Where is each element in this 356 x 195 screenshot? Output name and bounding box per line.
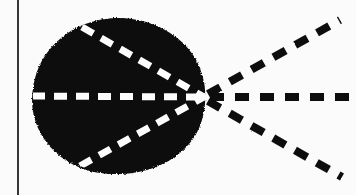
- diagram-svg: [0, 0, 356, 195]
- convergence-point: [201, 94, 207, 100]
- figure-canvas: [0, 0, 356, 195]
- left-margin-rule: [17, 0, 19, 195]
